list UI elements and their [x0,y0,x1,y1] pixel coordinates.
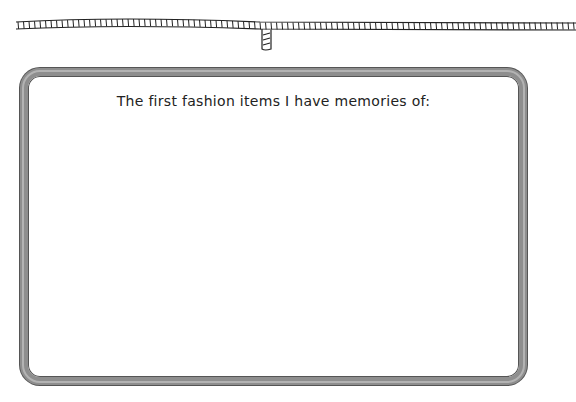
answer-area[interactable] [38,120,509,367]
ruler-tape-decoration [0,0,576,60]
memory-card-frame: The first fashion items I have memories … [20,68,527,385]
card-prompt: The first fashion items I have memories … [28,93,519,109]
